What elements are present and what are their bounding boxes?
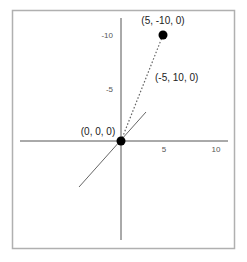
point-p1 bbox=[159, 31, 168, 40]
coordinate-diagram: -10 -5 5 10 (5, -10, 0) (0, 0, 0) (-5, 1… bbox=[0, 0, 247, 262]
x-tick-label: 5 bbox=[162, 145, 167, 154]
x-tick-label: 10 bbox=[212, 145, 221, 154]
diagram-frame bbox=[13, 11, 235, 249]
y-tick-label: -10 bbox=[101, 31, 113, 40]
origin-point bbox=[117, 137, 126, 146]
origin-label: (0, 0, 0) bbox=[81, 126, 115, 137]
point-p1-label: (5, -10, 0) bbox=[141, 15, 184, 26]
vector-label: (-5, 10, 0) bbox=[155, 72, 198, 83]
y-tick-label: -5 bbox=[106, 85, 114, 94]
